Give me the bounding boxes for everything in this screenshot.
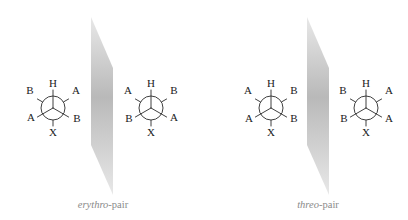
- back-upper-right-label: A: [72, 84, 80, 96]
- threo-pair-group: H A B A B X H B A B A X threo-pair: [244, 17, 393, 210]
- caption-italic-part: erythro: [78, 199, 109, 210]
- back-bottom-label: X: [49, 126, 57, 138]
- mirror-plane-erythro: [91, 17, 113, 195]
- newman-projection-threo-right: H B A B A X: [339, 77, 393, 138]
- back-upper-left-label: B: [339, 84, 346, 96]
- back-upper-left-label: A: [244, 84, 252, 96]
- erythro-pair-group: H A B B A X H B A A B X erythro-pair: [26, 17, 178, 210]
- back-upper-right-label: B: [170, 84, 177, 96]
- newman-projection-erythro-left: H A B B A X: [26, 77, 80, 138]
- newman-projection-erythro-right: H B A A B X: [124, 77, 178, 138]
- back-bottom-label: X: [362, 126, 370, 138]
- back-upper-left-label: B: [26, 84, 33, 96]
- front-lower-right-label: B: [73, 112, 80, 124]
- back-bottom-label: X: [147, 126, 155, 138]
- front-top-label: H: [147, 77, 155, 89]
- back-bottom-label: X: [267, 126, 275, 138]
- back-upper-right-label: A: [385, 84, 393, 96]
- back-upper-left-label: A: [124, 84, 132, 96]
- front-lower-right-label: B: [290, 112, 297, 124]
- front-top-label: H: [49, 77, 57, 89]
- caption-italic-part: threo: [297, 199, 319, 210]
- erythro-pair-caption: erythro-pair: [78, 199, 129, 210]
- front-top-label: H: [362, 77, 370, 89]
- front-lower-right-label: A: [385, 112, 393, 124]
- front-lower-left-label: B: [340, 112, 347, 124]
- newman-projection-threo-left: H A B A B X: [244, 77, 298, 138]
- front-lower-left-label: B: [125, 112, 132, 124]
- front-lower-left-label: A: [245, 112, 253, 124]
- back-upper-right-label: B: [290, 84, 297, 96]
- front-top-label: H: [267, 77, 275, 89]
- mirror-plane-threo: [307, 17, 329, 195]
- front-lower-left-label: A: [27, 111, 35, 123]
- stereochemistry-diagram: H A B B A X H B A A B X erythro-pair: [0, 0, 408, 220]
- threo-pair-caption: threo-pair: [297, 199, 339, 210]
- caption-suffix: -pair: [108, 199, 128, 210]
- caption-suffix: -pair: [319, 199, 339, 210]
- front-lower-right-label: A: [170, 111, 178, 123]
